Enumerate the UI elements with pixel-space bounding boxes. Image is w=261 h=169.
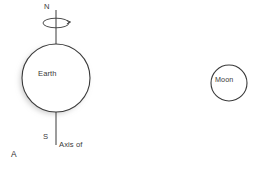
figure-panel-label: A [11, 150, 17, 160]
north-pole-label: N [44, 3, 50, 12]
moon-label: Moon [215, 76, 233, 84]
figure-canvas: N Earth S Axis of rotation Moon A [0, 0, 261, 169]
axis-caption-line-2: rotation [59, 168, 85, 169]
axis-of-rotation-caption: Axis of rotation [59, 123, 85, 169]
south-pole-label: S [43, 133, 48, 142]
axis-caption-line-1: Axis of [59, 141, 85, 150]
diagram-svg [0, 0, 261, 169]
earth-label: Earth [38, 70, 57, 79]
